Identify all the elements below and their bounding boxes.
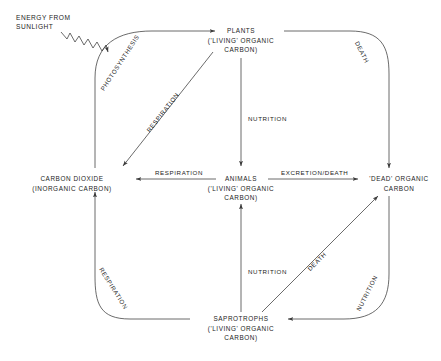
node-animals-sub1: ('LIVING' ORGANIC (187, 184, 295, 194)
label-nutrition-plants-to-animals: NUTRITION (248, 115, 287, 122)
node-animals-title: ANIMALS (187, 174, 295, 184)
sunlight-energy-zigzag (61, 32, 108, 52)
node-dead-organic-carbon-sub1: CARBON (357, 184, 441, 194)
node-dead-organic-carbon-title: 'DEAD' ORGANIC (357, 174, 441, 184)
edge-line-respiration-saprotrophs-to-co2 (95, 192, 190, 319)
node-saprotrophs: SAPROTROPHS ('LIVING' ORGANIC CARBON) (186, 314, 296, 343)
node-carbon-dioxide-title: CARBON DIOXIDE (8, 174, 136, 184)
label-respiration-animals-to-co2: RESPIRATION (155, 169, 203, 176)
node-plants-title: PLANTS (186, 26, 296, 36)
node-plants: PLANTS ('LIVING' ORGANIC CARBON) (186, 26, 296, 55)
label-nutrition-saprotrophs-to-animals: NUTRITION (248, 268, 287, 275)
node-dead-organic-carbon: 'DEAD' ORGANIC CARBON (357, 174, 441, 193)
carbon-cycle-diagram: PLANTS ('LIVING' ORGANIC CARBON) CARBON … (0, 0, 441, 361)
node-plants-sub2: CARBON) (186, 45, 296, 55)
energy-from-sunlight-line1: ENERGY FROM (16, 13, 70, 22)
node-animals-sub2: CARBON) (187, 193, 295, 203)
node-animals: ANIMALS ('LIVING' ORGANIC CARBON) (187, 174, 295, 203)
node-plants-sub1: ('LIVING' ORGANIC (186, 36, 296, 46)
label-energy-from-sunlight: ENERGY FROM SUNLIGHT (16, 13, 70, 31)
edge-line-nutrition-dead-to-saprotrophs (288, 196, 389, 319)
node-carbon-dioxide-sub1: (INORGANIC CARBON) (8, 184, 136, 194)
energy-from-sunlight-line2: SUNLIGHT (16, 22, 70, 31)
node-saprotrophs-title: SAPROTROPHS (186, 314, 296, 324)
node-saprotrophs-sub2: CARBON) (186, 333, 296, 343)
node-carbon-dioxide: CARBON DIOXIDE (INORGANIC CARBON) (8, 174, 136, 193)
edge-line-death-plants-to-dead (284, 31, 389, 168)
label-excretion-death: EXCRETION/DEATH (281, 169, 348, 176)
node-saprotrophs-sub1: ('LIVING' ORGANIC (186, 324, 296, 334)
